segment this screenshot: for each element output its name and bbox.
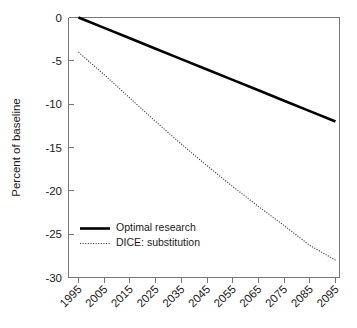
x-tick-label: 2095: [314, 283, 341, 310]
y-axis-title: Percent of baseline: [10, 98, 22, 196]
series-line-optimal-research: [79, 18, 336, 122]
x-tick-label: 2055: [212, 283, 239, 310]
line-chart: 0 -5 -10 -15 -20 -25 -30 Percent of base…: [0, 0, 357, 328]
y-tick-label: -15: [45, 142, 62, 154]
x-tick-label: 2005: [83, 283, 110, 310]
y-tick-label: -10: [45, 98, 62, 110]
chart-figure: 0 -5 -10 -15 -20 -25 -30 Percent of base…: [0, 0, 357, 328]
y-tick-label: -20: [45, 185, 62, 197]
y-axis-tick-labels: 0 -5 -10 -15 -20 -25 -30: [45, 12, 62, 284]
y-tick-label: 0: [56, 12, 62, 24]
x-tick-label: 2075: [263, 283, 290, 310]
chart-legend: Optimal research DICE: substitution: [80, 221, 200, 248]
x-tick-label: 2065: [237, 283, 264, 310]
y-axis-ticks: [69, 18, 74, 278]
x-tick-label: 2035: [160, 283, 187, 310]
plot-frame: [69, 18, 340, 278]
x-axis-tick-labels: 1995 2005 2015 2025 2035 2045 2055 2065 …: [57, 283, 341, 310]
y-tick-label: -25: [45, 228, 62, 240]
x-tick-label: 2045: [186, 283, 213, 310]
x-tick-label: 1995: [57, 283, 84, 310]
legend-label-dice-substitution: DICE: substitution: [116, 236, 200, 248]
x-axis-ticks: [79, 278, 336, 283]
y-tick-label: -30: [45, 272, 62, 284]
x-tick-label: 2015: [109, 283, 136, 310]
x-tick-label: 2085: [289, 283, 316, 310]
x-tick-label: 2025: [134, 283, 161, 310]
y-tick-label: -5: [52, 55, 62, 67]
legend-label-optimal-research: Optimal research: [116, 221, 196, 233]
